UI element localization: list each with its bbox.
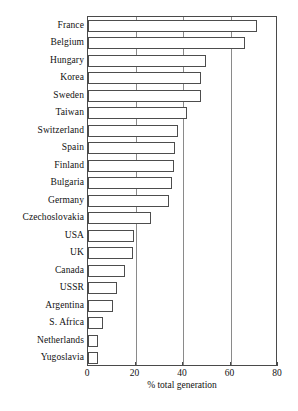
y-axis-label: Czechoslovakia [1, 212, 84, 222]
plot-area [87, 16, 277, 366]
y-axis-label: France [1, 20, 84, 30]
bar-row [88, 227, 276, 245]
bar [88, 37, 245, 49]
y-axis-label: USSR [1, 282, 84, 292]
bar-row [88, 210, 276, 228]
bar [88, 317, 103, 329]
bar-row [88, 105, 276, 123]
x-tick-label: 40 [177, 368, 187, 379]
y-axis-label: Belgium [1, 37, 84, 47]
bar-row [88, 35, 276, 53]
figure: FranceBelgiumHungaryKoreaSwedenTaiwanSwi… [0, 0, 298, 411]
bar [88, 352, 98, 364]
y-axis-label: S. Africa [1, 317, 84, 327]
y-axis-label: USA [1, 230, 84, 240]
bar [88, 160, 174, 172]
bar [88, 107, 187, 119]
bar [88, 177, 172, 189]
bar [88, 230, 134, 242]
bar-row [88, 52, 276, 70]
x-tick-label: 20 [130, 368, 140, 379]
bar [88, 335, 98, 347]
bar [88, 90, 201, 102]
x-tick-label: 0 [85, 368, 90, 379]
bar [88, 247, 133, 259]
y-axis-category-labels: FranceBelgiumHungaryKoreaSwedenTaiwanSwi… [0, 16, 84, 366]
bar-row [88, 87, 276, 105]
y-axis-label: Yugoslavia [1, 352, 84, 362]
bar-row [88, 297, 276, 315]
x-tick-label: 80 [272, 368, 282, 379]
y-axis-label: Germany [1, 195, 84, 205]
bar-row [88, 157, 276, 175]
bar-row [88, 192, 276, 210]
bar-row [88, 332, 276, 350]
x-tick-mark [87, 362, 88, 366]
x-axis-ticks: 020406080 [87, 366, 277, 380]
y-axis-label: Sweden [1, 90, 84, 100]
bar [88, 265, 125, 277]
x-tick-mark [135, 362, 136, 366]
bar [88, 55, 206, 67]
bar-row [88, 175, 276, 193]
bar [88, 142, 175, 154]
x-tick-mark [230, 362, 231, 366]
bar-row [88, 70, 276, 88]
bar-row [88, 245, 276, 263]
y-axis-label: Switzerland [1, 125, 84, 135]
bar [88, 72, 201, 84]
y-axis-label: Spain [1, 142, 84, 152]
bar [88, 20, 257, 32]
bar-row [88, 122, 276, 140]
bar [88, 195, 169, 207]
y-axis-label: Netherlands [1, 335, 84, 345]
x-tick-mark [277, 362, 278, 366]
y-axis-label: Argentina [1, 300, 84, 310]
y-axis-label: UK [1, 247, 84, 257]
bar-row [88, 17, 276, 35]
bar-row [88, 262, 276, 280]
bar-row [88, 315, 276, 333]
x-axis-title: % total generation [87, 380, 277, 391]
y-axis-label: Hungary [1, 55, 84, 65]
bar [88, 125, 178, 137]
x-tick-label: 60 [225, 368, 235, 379]
bar [88, 300, 113, 312]
bar [88, 212, 151, 224]
bar-row [88, 140, 276, 158]
y-axis-label: Korea [1, 72, 84, 82]
y-axis-label: Canada [1, 265, 84, 275]
x-tick-mark [182, 362, 183, 366]
bar-row [88, 280, 276, 298]
bar [88, 282, 117, 294]
y-axis-label: Bulgaria [1, 177, 84, 187]
y-axis-label: Taiwan [1, 107, 84, 117]
y-axis-label: Finland [1, 160, 84, 170]
